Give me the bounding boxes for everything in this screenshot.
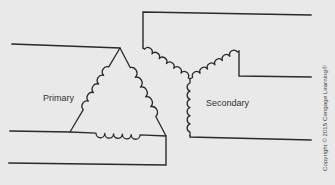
- secondary-line-a: [143, 12, 311, 48]
- secondary-line-b: [239, 51, 311, 77]
- primary-label: Primary: [43, 93, 74, 103]
- secondary-coil-right: [190, 50, 239, 79]
- primary-coil-right: [120, 48, 166, 136]
- secondary-label: Secondary: [206, 98, 250, 108]
- copyright-notice: Copyright © 2015 Cengage Learning®: [321, 65, 328, 171]
- primary-coil-left: [70, 48, 120, 132]
- primary-delta-winding: Primary: [9, 44, 166, 165]
- secondary-coil-vertical: [187, 79, 190, 136]
- transformer-diagram: Primary Secondary Copyright © 2015 Cenga…: [0, 0, 335, 185]
- secondary-coil-left: [143, 48, 190, 79]
- primary-line-b: [10, 131, 70, 132]
- primary-line-c: [9, 136, 166, 165]
- primary-line-a: [12, 44, 120, 48]
- secondary-line-c: [190, 136, 311, 140]
- primary-coil-bottom: [70, 132, 166, 139]
- secondary-wye-winding: Secondary: [143, 12, 311, 140]
